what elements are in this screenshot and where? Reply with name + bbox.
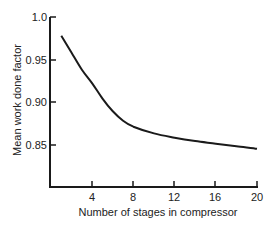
y-axis-title: Mean work done factor	[11, 44, 23, 156]
y-axis: 1.0 0.95 0.90 0.85 Mean work done factor	[11, 11, 56, 188]
x-tick-label: 8	[130, 191, 136, 203]
chart: 1.0 0.95 0.90 0.85 Mean work done factor…	[0, 0, 275, 226]
work-done-factor-curve	[61, 36, 257, 149]
x-axis: 4 8 12 16 20 Number of stages in compres…	[49, 181, 263, 218]
x-axis-title: Number of stages in compressor	[79, 206, 238, 218]
x-tick-label: 16	[209, 191, 221, 203]
y-tick-label: 1.0	[32, 11, 47, 23]
y-tick-label: 0.90	[26, 96, 47, 108]
x-tick-label: 4	[89, 191, 95, 203]
y-tick-label: 0.85	[26, 139, 47, 151]
x-tick-label: 12	[168, 191, 180, 203]
y-tick-label: 0.95	[26, 54, 47, 66]
x-tick-label: 20	[251, 191, 263, 203]
